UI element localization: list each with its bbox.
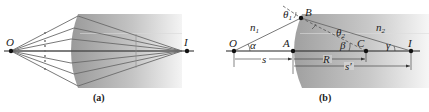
object-point-a: [9, 49, 13, 53]
incident-ray: [234, 18, 301, 51]
center-point-c: [364, 49, 368, 53]
caption-a: (a): [93, 92, 105, 104]
label-object-a: O: [6, 36, 14, 48]
theta1-arc: [294, 12, 296, 18]
surface-point-b: [299, 16, 303, 20]
label-image-a: I: [183, 36, 189, 48]
label-s: s: [262, 53, 266, 65]
image-point-b: [409, 49, 413, 53]
label-n1: n1: [250, 21, 259, 35]
panel-b: O A B C I n1 n2 α β γ θ1 θ2 s R: [226, 6, 429, 104]
label-theta1: θ1: [283, 8, 292, 22]
caption-b: (b): [319, 92, 331, 104]
label-s-prime: s′: [345, 60, 352, 72]
label-vertex: A: [282, 37, 290, 49]
label-gamma: γ: [386, 39, 391, 51]
label-beta: β: [339, 39, 346, 51]
object-point-b: [232, 49, 236, 53]
label-surface-point: B: [305, 6, 312, 18]
label-R: R: [322, 53, 330, 65]
label-center: C: [357, 37, 365, 49]
panel-a: O I (a): [4, 14, 194, 104]
image-point-a: [185, 49, 189, 53]
label-object-b: O: [229, 37, 237, 49]
label-alpha: α: [250, 39, 256, 51]
refraction-figure: O I (a) O A B C I: [0, 0, 429, 112]
vertex-point-a: [291, 49, 295, 53]
